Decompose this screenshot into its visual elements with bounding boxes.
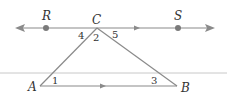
label-c: C [92, 13, 101, 27]
parallel-marker-icon [100, 84, 106, 89]
angle-4-label: 4 [78, 30, 84, 41]
parallel-marker-icon [134, 26, 140, 31]
angle-2-label: 2 [93, 32, 99, 43]
label-a: A [27, 80, 37, 94]
point-s-dot [175, 25, 181, 31]
label-s: S [174, 9, 182, 23]
label-b: B [180, 81, 190, 95]
point-r-dot [43, 25, 49, 31]
label-r: R [41, 9, 51, 23]
parallel-lines-triangle-diagram: R C S A B 4 2 5 1 3 [0, 0, 227, 99]
angle-3-label: 3 [151, 75, 157, 86]
angle-5-label: 5 [112, 29, 118, 40]
angle-1-label: 1 [52, 75, 58, 86]
